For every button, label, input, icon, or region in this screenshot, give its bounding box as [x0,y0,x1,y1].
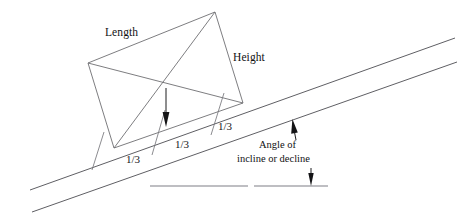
diagram-canvas: Length Height 1/3 1/3 1/3 Angle of incli… [0,0,461,223]
length-label: Length [105,26,138,39]
incline-diagram-svg: Length Height 1/3 1/3 1/3 Angle of incli… [0,0,461,223]
angle-pointer-arrow-head [291,119,298,134]
third-label-2: 1/3 [175,138,190,150]
third-tick-2 [152,110,165,155]
third-label-1: 1/3 [126,153,141,165]
angle-label-line2: incline or decline [237,153,310,164]
incline-lower-line [32,62,457,212]
third-label-3: 1/3 [218,120,233,132]
ground-pointer-arrow-head [308,173,313,186]
height-label: Height [233,51,266,64]
quad-edge-bottom-left [88,63,114,148]
height-drop-arrow-head [163,112,170,127]
angle-label-line1: Angle of [259,139,297,150]
